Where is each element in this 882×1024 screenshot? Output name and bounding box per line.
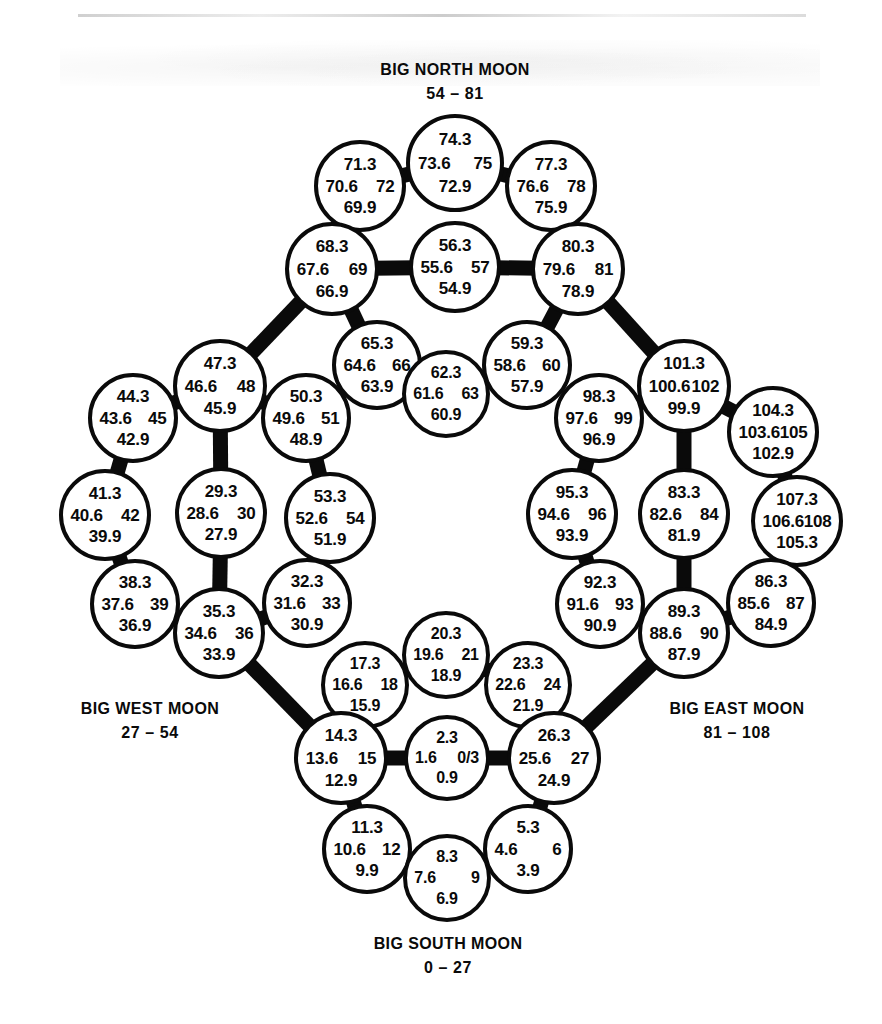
moon-value-left: 40.6 (71, 507, 103, 524)
moon-node-m92: 92.391.69390.9 (555, 559, 645, 649)
moon-value-top: 98.3 (583, 388, 615, 405)
moon-node-m11: 11.310.6129.9 (322, 804, 412, 894)
moon-value-right: 69 (349, 261, 368, 278)
moon-value-bottom: 102.9 (752, 445, 794, 462)
moon-value-top: 32.3 (291, 573, 323, 590)
moon-value-right: 15 (358, 750, 377, 767)
moon-node-m2: 2.31.60/30.9 (404, 715, 490, 801)
moon-value-left: 94.6 (538, 506, 570, 523)
caption-title: BIG WEST MOON (81, 700, 220, 717)
moon-value-bottom: 69.9 (344, 199, 376, 216)
moon-value-top: 2.3 (436, 730, 458, 746)
moon-node-m29: 29.328.63027.9 (175, 467, 267, 559)
moon-value-top: 26.3 (538, 727, 570, 744)
moon-value-left: 31.6 (273, 595, 305, 612)
caption-title: BIG NORTH MOON (380, 61, 530, 78)
moon-value-left: 7.6 (414, 870, 436, 886)
moon-value-top: 71.3 (344, 156, 376, 173)
moon-value-right: 99 (614, 410, 633, 427)
moon-value-left: 106.6 (763, 513, 805, 530)
moon-value-top: 50.3 (290, 388, 322, 405)
moon-value-left: 55.6 (421, 259, 453, 276)
moon-value-right: 36 (235, 625, 254, 642)
moon-value-top: 5.3 (516, 819, 539, 836)
moon-value-bottom: 36.9 (119, 617, 151, 634)
moon-value-bottom: 105.3 (776, 534, 818, 551)
moon-value-bottom: 0.9 (436, 770, 458, 786)
moon-value-top: 107.3 (776, 491, 818, 508)
moon-value-top: 8.3 (436, 849, 458, 865)
moon-value-left: 88.6 (650, 625, 682, 642)
caption-range: 54 – 81 (315, 82, 595, 106)
moon-value-bottom: 15.9 (350, 698, 380, 714)
moon-node-m95: 95.394.69693.9 (526, 468, 618, 560)
moon-node-m47: 47.346.64845.9 (173, 339, 267, 433)
moon-node-m68: 68.367.66966.9 (285, 222, 379, 316)
moon-value-top: 95.3 (556, 484, 588, 501)
moon-value-top: 29.3 (205, 483, 237, 500)
moon-value-right: 90 (700, 625, 719, 642)
moon-value-top: 23.3 (513, 656, 543, 672)
moon-value-bottom: 63.9 (361, 378, 393, 395)
moon-value-bottom: 3.9 (516, 862, 539, 879)
moon-value-left: 4.6 (494, 841, 517, 858)
moon-node-m77: 77.376.67875.9 (505, 140, 597, 232)
moon-value-left: 1.6 (415, 750, 437, 766)
moon-value-right: 33 (322, 595, 341, 612)
quadrant-caption-east: BIG EAST MOON81 – 108 (597, 697, 877, 745)
moon-value-left: 61.6 (413, 386, 443, 402)
caption-title: BIG EAST MOON (670, 700, 805, 717)
moon-value-right: 12 (382, 841, 401, 858)
moon-value-top: 104.3 (752, 402, 794, 419)
moon-node-m107: 107.3106.6108105.3 (751, 475, 843, 567)
moon-value-right: 21 (461, 647, 478, 663)
moon-value-bottom: 51.9 (314, 531, 346, 548)
moon-value-left: 73.6 (418, 155, 450, 172)
moon-value-top: 68.3 (316, 238, 348, 255)
moon-value-left: 22.6 (495, 677, 525, 693)
moon-value-bottom: 30.9 (291, 616, 323, 633)
moon-value-right: 96 (588, 506, 607, 523)
moon-node-m38: 38.337.63936.9 (90, 559, 180, 649)
moon-value-left: 25.6 (519, 750, 551, 767)
moon-value-right: 6 (552, 841, 561, 858)
moon-node-m80: 80.379.68178.9 (531, 222, 625, 316)
moon-value-right: 27 (571, 750, 590, 767)
caption-range: 0 – 27 (308, 956, 588, 980)
moon-value-right: 63 (461, 386, 478, 402)
moon-value-right: 54 (346, 510, 365, 527)
moon-node-m32: 32.331.63330.9 (262, 558, 352, 648)
moon-value-bottom: 60.9 (431, 407, 461, 423)
moon-value-left: 97.6 (565, 410, 597, 427)
moon-value-right: 105 (780, 424, 808, 441)
moon-value-right: 30 (237, 505, 256, 522)
moon-value-bottom: 18.9 (431, 668, 461, 684)
moon-node-m53: 53.352.65451.9 (284, 472, 376, 564)
moon-value-top: 83.3 (668, 484, 700, 501)
moon-node-m5: 5.34.663.9 (483, 804, 573, 894)
moon-value-bottom: 9.9 (355, 862, 378, 879)
moon-value-right: 45 (148, 410, 167, 427)
moon-value-top: 35.3 (203, 603, 235, 620)
moon-node-m83: 83.382.68481.9 (638, 468, 730, 560)
moon-value-left: 10.6 (333, 841, 365, 858)
moon-value-bottom: 45.9 (204, 400, 236, 417)
moon-node-m89: 89.388.69087.9 (638, 587, 730, 679)
moon-node-m41: 41.340.64239.9 (59, 469, 151, 561)
moon-value-left: 34.6 (185, 625, 217, 642)
quadrant-caption-south: BIG SOUTH MOON0 – 27 (308, 932, 588, 980)
caption-range: 27 – 54 (10, 721, 290, 745)
moon-value-left: 70.6 (326, 178, 358, 195)
moon-value-top: 77.3 (535, 156, 567, 173)
moon-value-left: 16.6 (332, 677, 362, 693)
caption-title: BIG SOUTH MOON (374, 935, 523, 952)
moon-value-bottom: 21.9 (513, 698, 543, 714)
moon-value-bottom: 93.9 (556, 527, 588, 544)
moon-value-right: 9 (471, 870, 480, 886)
moon-node-m86: 86.385.68784.9 (726, 558, 816, 648)
moon-value-top: 20.3 (431, 626, 461, 642)
moon-node-m50: 50.349.65148.9 (261, 373, 351, 463)
moon-value-left: 28.6 (187, 505, 219, 522)
moon-value-right: 39 (150, 596, 169, 613)
moon-value-bottom: 54.9 (439, 280, 471, 297)
